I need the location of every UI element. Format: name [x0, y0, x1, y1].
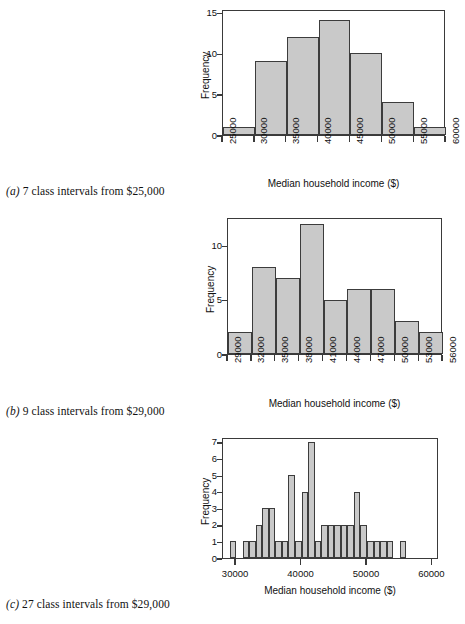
panel-a-plot-area — [222, 10, 445, 136]
panel-b-caption-label: (b) — [6, 405, 20, 417]
panel-c-caption-text: 27 class intervals from $29,000 — [19, 598, 170, 610]
histogram-bar — [262, 508, 269, 558]
y-axis-tick — [217, 492, 222, 493]
histogram-bar — [300, 224, 324, 354]
x-axis-tick — [370, 355, 371, 361]
y-axis-tick — [217, 13, 222, 14]
panel-a-x-axis-label: Median household income ($) — [182, 178, 465, 189]
x-axis-tick-label: 40000 — [273, 568, 329, 579]
histogram-bar — [374, 541, 381, 558]
histogram-bar — [243, 541, 250, 558]
histogram-bar — [328, 525, 335, 558]
histogram-bar — [321, 525, 328, 558]
panel-b-plot-area — [227, 218, 442, 355]
y-axis-tick-label: 7 — [192, 436, 217, 447]
x-axis-tick-label: 44000 — [351, 337, 362, 363]
y-axis-tick-label: 1 — [192, 536, 217, 547]
x-axis-tick — [234, 559, 235, 565]
panel-b-caption-text: 9 class intervals from $29,000 — [20, 405, 165, 417]
x-axis-tick-label: 35000 — [290, 118, 301, 144]
x-axis-tick-label: 50000 — [399, 337, 410, 363]
x-axis-tick — [365, 559, 366, 565]
x-axis-tick — [349, 136, 350, 142]
x-axis-tick — [441, 355, 442, 361]
y-axis-tick-label: 0 — [197, 349, 222, 360]
x-axis-tick-label: 53000 — [423, 337, 434, 363]
panel-b-x-axis-label: Median household income ($) — [187, 398, 465, 409]
histogram-figure: 0510152500030000350004000045000500005500… — [0, 0, 465, 624]
histogram-bar — [230, 541, 237, 558]
x-axis-tick-label: 30000 — [258, 118, 269, 144]
histogram-bar — [360, 525, 367, 558]
y-axis-tick-label: 10 — [197, 240, 222, 251]
y-axis-tick — [217, 94, 222, 95]
histogram-bar — [354, 492, 361, 558]
panel-b-caption: (b) 9 class intervals from $29,000 — [6, 405, 165, 418]
x-axis-tick — [322, 355, 323, 361]
x-axis-tick-label: 40000 — [322, 118, 333, 144]
y-axis-tick-label: 6 — [192, 453, 217, 464]
histogram-bar — [387, 541, 394, 558]
y-axis-tick — [217, 459, 222, 460]
x-axis-tick-label: 25000 — [227, 118, 238, 144]
y-axis-tick — [222, 246, 227, 247]
panel-c-x-axis-label: Median household income ($) — [182, 585, 465, 596]
panel-c-plot-area — [222, 438, 438, 559]
x-axis-tick — [317, 136, 318, 142]
x-axis-tick-label: 32000 — [255, 337, 266, 363]
x-axis-tick — [253, 136, 254, 142]
x-axis-tick-label: 35000 — [279, 337, 290, 363]
histogram-bar — [302, 492, 309, 558]
y-axis-tick-label: 15 — [192, 7, 217, 18]
x-axis-tick — [431, 559, 432, 565]
x-axis-tick-label: 50000 — [386, 118, 397, 144]
x-axis-tick-label: 29000 — [232, 337, 243, 363]
x-axis-tick — [346, 355, 347, 361]
panel-c-caption-label: (c) — [6, 598, 19, 610]
x-axis-tick-label: 45000 — [354, 118, 365, 144]
x-axis-tick-label: 41000 — [327, 337, 338, 363]
x-axis-tick-label: 55000 — [418, 118, 429, 144]
y-axis-tick — [217, 525, 222, 526]
y-axis-tick — [217, 442, 222, 443]
histogram-bar — [315, 541, 322, 558]
panel-a-caption-label: (a) — [6, 185, 20, 197]
x-axis-tick — [300, 559, 301, 565]
histogram-bar — [380, 541, 387, 558]
histogram-bar — [347, 525, 354, 558]
x-axis-tick-label: 47000 — [375, 337, 386, 363]
panel-c-caption: (c) 27 class intervals from $29,000 — [6, 598, 170, 611]
y-axis-tick — [222, 300, 227, 301]
histogram-bar — [288, 475, 295, 558]
histogram-bar — [400, 541, 407, 558]
panel-b-y-axis-label: Frequency — [205, 265, 216, 312]
histogram-bar — [269, 508, 276, 558]
x-axis-tick — [274, 355, 275, 361]
x-axis-tick-label: 56000 — [447, 337, 458, 363]
x-axis-tick — [250, 355, 251, 361]
y-axis-tick — [217, 558, 222, 559]
x-axis-tick — [285, 136, 286, 142]
panel-c-y-axis-label: Frequency — [200, 477, 211, 524]
x-axis-tick — [394, 355, 395, 361]
histogram-bar — [334, 525, 341, 558]
x-axis-tick — [413, 136, 414, 142]
y-axis-tick — [217, 476, 222, 477]
histogram-bar — [341, 525, 348, 558]
panel-a-caption-text: 7 class intervals from $25,000 — [20, 185, 165, 197]
x-axis-tick — [298, 355, 299, 361]
histogram-bar — [256, 525, 263, 558]
x-axis-tick — [226, 355, 227, 361]
x-axis-tick — [381, 136, 382, 142]
x-axis-tick-label: 50000 — [338, 568, 394, 579]
histogram-bar — [308, 442, 315, 558]
x-axis-tick — [444, 136, 445, 142]
x-axis-tick — [418, 355, 419, 361]
histogram-bar — [249, 541, 256, 558]
y-axis-tick-label: 0 — [192, 553, 217, 564]
x-axis-tick-label: 60000 — [450, 118, 461, 144]
x-axis-tick-label: 60000 — [403, 568, 459, 579]
x-axis-tick-label: 38000 — [303, 337, 314, 363]
y-axis-tick — [217, 509, 222, 510]
y-axis-tick — [217, 54, 222, 55]
